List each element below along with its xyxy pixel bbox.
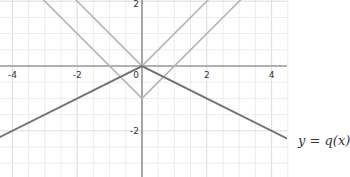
svg-text:-4: -4 bbox=[8, 70, 17, 80]
series-line-2 bbox=[0, 66, 288, 139]
svg-text:2: 2 bbox=[133, 0, 139, 9]
plot-series bbox=[0, 0, 288, 139]
tick-labels: -4-2024-22 bbox=[8, 0, 275, 136]
svg-text:-2: -2 bbox=[73, 70, 82, 80]
svg-text:2: 2 bbox=[204, 70, 210, 80]
series-line-1 bbox=[0, 0, 288, 98]
svg-text:4: 4 bbox=[269, 70, 275, 80]
function-label-q: y = q(x) bbox=[298, 133, 350, 148]
svg-text:-2: -2 bbox=[130, 126, 139, 136]
svg-text:0: 0 bbox=[133, 70, 139, 80]
axes bbox=[0, 0, 287, 177]
series-line-0 bbox=[0, 0, 288, 66]
grid-lines bbox=[0, 0, 288, 177]
